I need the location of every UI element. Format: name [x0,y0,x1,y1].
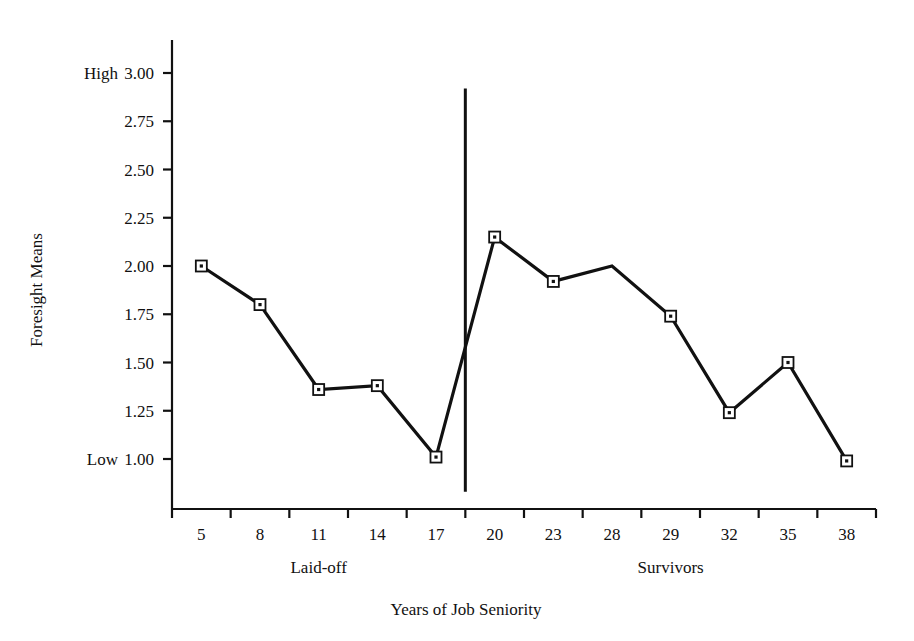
y-axis-tick-label: 2.25 [124,209,154,228]
data-point-center-dot [845,459,848,462]
x-axis-tick-label: 5 [197,525,206,544]
foresight-means-line-chart: 3.002.752.502.252.001.751.501.251.00 Hig… [0,0,914,641]
x-axis-title: Years of Job Seniority [391,600,542,619]
y-axis-high-anchor-label: High [84,64,119,83]
x-axis-tick-label: 23 [545,525,562,544]
data-point-center-dot [317,388,320,391]
group-label-survivors: Survivors [638,558,704,577]
y-axis-ticks [163,73,172,459]
x-axis-ticks [172,509,876,518]
x-axis-tick-label: 11 [310,525,326,544]
data-point-center-dot [434,455,437,458]
y-axis-tick-label: 2.00 [124,257,154,276]
data-point-center-dot [493,235,496,238]
data-point-center-dot [376,384,379,387]
y-axis-tick-label: 1.75 [124,305,154,324]
x-axis-tick-label: 20 [486,525,503,544]
y-axis-tick-label: 3.00 [124,64,154,83]
y-axis-tick-label: 2.75 [124,112,154,131]
x-axis-tick-label: 35 [780,525,797,544]
data-point-center-dot [552,280,555,283]
x-axis-tick-label: 17 [428,525,446,544]
x-axis-tick-label: 28 [604,525,621,544]
y-axis-title: Foresight Means [27,233,46,347]
x-axis-tick-label: 14 [369,525,387,544]
y-axis-tick-label: 1.50 [124,354,154,373]
data-point-markers [196,232,852,467]
x-axis-tick-label: 38 [838,525,855,544]
x-axis-tick-labels: 5811141720232829323538 [197,525,855,544]
data-point-center-dot [200,264,203,267]
x-axis-tick-label: 8 [256,525,265,544]
group-label-laid-off: Laid-off [290,558,347,577]
x-axis-tick-label: 29 [662,525,679,544]
data-point-center-dot [786,361,789,364]
y-axis-tick-label: 1.00 [124,450,154,469]
x-axis-tick-label: 32 [721,525,738,544]
chart-page: 3.002.752.502.252.001.751.501.251.00 Hig… [0,0,914,641]
y-axis-tick-labels: 3.002.752.502.252.001.751.501.251.00 [124,64,154,469]
y-axis-low-anchor-label: Low [87,450,119,469]
data-line [201,237,846,461]
y-axis-tick-label: 1.25 [124,402,154,421]
y-axis-tick-label: 2.50 [124,161,154,180]
data-point-center-dot [728,411,731,414]
data-point-center-dot [669,315,672,318]
data-point-center-dot [258,303,261,306]
